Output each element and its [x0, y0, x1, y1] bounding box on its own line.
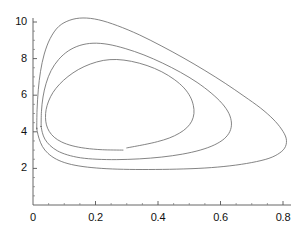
y-tick-label: 8 [0, 52, 27, 64]
x-tick-label: 0.2 [76, 211, 116, 223]
x-tick-label: 0.8 [263, 211, 303, 223]
curve-outer-orbit [37, 18, 287, 170]
y-tick-label: 2 [0, 161, 27, 173]
x-tick-label: 0.6 [201, 211, 241, 223]
y-tick-label: 10 [0, 15, 27, 27]
plot-canvas [0, 0, 303, 235]
curve-middle-orbit [41, 43, 231, 159]
x-tick-label: 0.4 [138, 211, 178, 223]
phase-portrait-figure: 246810 00.20.40.60.8 [0, 0, 303, 235]
curves-group [37, 18, 287, 170]
curve-inner-orbit-open-trajectory [45, 59, 194, 150]
y-tick-label: 4 [0, 125, 27, 137]
x-tick-label: 0 [13, 211, 53, 223]
y-tick-label: 6 [0, 88, 27, 100]
